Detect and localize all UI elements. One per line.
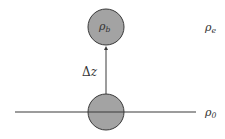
diagram-canvas	[0, 0, 225, 139]
environment-density-label: ρe	[205, 22, 216, 35]
arrow-head-icon	[104, 46, 108, 50]
parcel-density-label: ρb	[99, 21, 110, 34]
displacement-label: Δz	[82, 66, 97, 78]
reference-density-label: ρ0	[205, 107, 216, 120]
